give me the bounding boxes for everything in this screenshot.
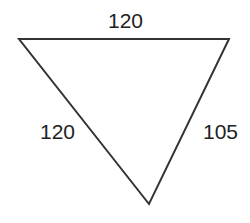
side-label-left: 120 xyxy=(40,121,75,142)
side-label-top: 120 xyxy=(108,10,143,31)
triangle-shape xyxy=(0,0,250,223)
triangle-diagram: 120 120 105 xyxy=(0,0,250,223)
side-label-right: 105 xyxy=(203,121,238,142)
